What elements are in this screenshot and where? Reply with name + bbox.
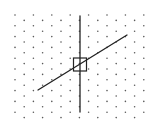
- grid-dot: [33, 90, 35, 92]
- grid-dot: [125, 68, 127, 70]
- grid-dot: [143, 111, 145, 113]
- grid-dot: [60, 106, 62, 108]
- grid-dot: [106, 14, 108, 16]
- grid-dot: [88, 111, 90, 113]
- grid-dot: [106, 111, 108, 113]
- grid-dot: [69, 111, 71, 113]
- grid-dot: [115, 106, 117, 108]
- grid-dot: [106, 57, 108, 59]
- grid-dot: [88, 79, 90, 81]
- grid-dot: [88, 47, 90, 49]
- grid-dot: [106, 101, 108, 103]
- grid-dot: [14, 57, 16, 59]
- grid-dot: [143, 47, 145, 49]
- grid-dot: [143, 68, 145, 70]
- grid-dot: [134, 117, 136, 119]
- grid-dot: [60, 63, 62, 65]
- grid-dot: [60, 117, 62, 119]
- grid-dot: [14, 68, 16, 70]
- grid-dot: [60, 95, 62, 97]
- grid-dot: [88, 90, 90, 92]
- grid-dot: [42, 63, 44, 65]
- grid-dot: [60, 52, 62, 54]
- grid-dot: [134, 20, 136, 22]
- grid-dot: [97, 84, 99, 86]
- grid-dot: [143, 57, 145, 59]
- grid-dot: [115, 52, 117, 54]
- grid-dot: [134, 52, 136, 54]
- grid-dot: [33, 36, 35, 38]
- grid-dot: [69, 25, 71, 27]
- grid-dot: [23, 30, 25, 32]
- grid-dot: [42, 74, 44, 76]
- grid-dot: [23, 106, 25, 108]
- grid-dot: [51, 25, 53, 27]
- grid-dot: [60, 41, 62, 43]
- grid-dot: [106, 90, 108, 92]
- grid-dot: [14, 14, 16, 16]
- grid-dot: [33, 101, 35, 103]
- grid-dot: [42, 30, 44, 32]
- grid-dot: [14, 111, 16, 113]
- grid-dot: [14, 79, 16, 81]
- grid-dot: [143, 25, 145, 27]
- grid-dot: [23, 52, 25, 54]
- grid-dot: [97, 63, 99, 65]
- grid-dot: [115, 74, 117, 76]
- grid-dot: [125, 79, 127, 81]
- grid-dot: [79, 117, 81, 119]
- grid-dot: [134, 30, 136, 32]
- grid-dot: [33, 111, 35, 113]
- grid-dot: [42, 117, 44, 119]
- grid-dot: [14, 90, 16, 92]
- grid-dot: [106, 79, 108, 81]
- grid-dot: [97, 74, 99, 76]
- grid-dot: [69, 101, 71, 103]
- grid-dot: [143, 36, 145, 38]
- grid-dot: [42, 95, 44, 97]
- grid-dot: [134, 74, 136, 76]
- grid-dot: [125, 111, 127, 113]
- grid-dot: [125, 101, 127, 103]
- grid-dot: [69, 14, 71, 16]
- grid-dot: [106, 36, 108, 38]
- grid-dot: [51, 47, 53, 49]
- grid-dot: [51, 68, 53, 70]
- grid-dot: [60, 20, 62, 22]
- grid-dot: [115, 20, 117, 22]
- grid-dot: [42, 41, 44, 43]
- grid-dot: [51, 101, 53, 103]
- grid-dot: [134, 95, 136, 97]
- grid-dot: [69, 79, 71, 81]
- grid-dot: [23, 20, 25, 22]
- grid-dot: [42, 20, 44, 22]
- grid-dot: [115, 117, 117, 119]
- grid-dot: [115, 30, 117, 32]
- grid-dot: [51, 57, 53, 59]
- grid-dot: [125, 47, 127, 49]
- grid-dot: [69, 90, 71, 92]
- grid-dot: [60, 30, 62, 32]
- grid-dot: [42, 52, 44, 54]
- grid-dot: [143, 79, 145, 81]
- diagram-canvas: [0, 0, 164, 130]
- grid-dot: [69, 36, 71, 38]
- grid-dot: [14, 101, 16, 103]
- grid-dot: [97, 106, 99, 108]
- grid-dot: [33, 25, 35, 27]
- grid-dot: [69, 57, 71, 59]
- diagonal-line: [38, 35, 127, 90]
- grid-dot: [115, 95, 117, 97]
- grid-dot: [143, 90, 145, 92]
- grid-dot: [88, 25, 90, 27]
- grid-dot: [143, 14, 145, 16]
- grid-dot: [69, 47, 71, 49]
- grid-dot: [42, 106, 44, 108]
- grid-dot: [14, 47, 16, 49]
- grid-dot: [33, 79, 35, 81]
- grid-dot: [143, 101, 145, 103]
- grid-dot: [97, 41, 99, 43]
- grid-dot: [33, 57, 35, 59]
- grid-dot: [125, 25, 127, 27]
- grid-dot: [106, 68, 108, 70]
